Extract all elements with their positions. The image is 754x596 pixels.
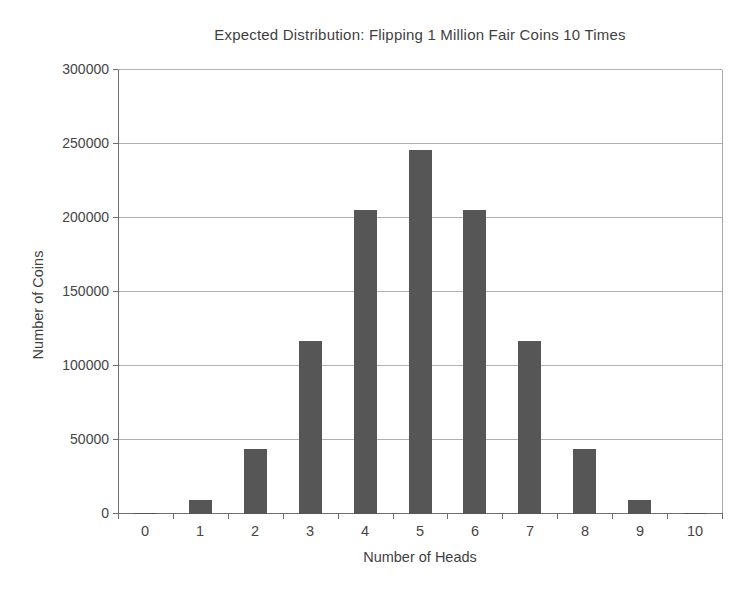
x-tick-mark <box>557 514 558 519</box>
y-axis-title: Number of Coins <box>30 235 50 375</box>
x-tick-mark <box>667 514 668 519</box>
chart-title: Expected Distribution: Flipping 1 Millio… <box>118 26 722 43</box>
x-tick-mark <box>612 514 613 519</box>
x-tick-label: 4 <box>338 523 392 540</box>
y-tick-label: 300000 <box>39 61 109 78</box>
bar-8 <box>573 449 596 514</box>
bar-5 <box>409 150 432 514</box>
bar-0 <box>134 513 157 515</box>
x-tick-label: 1 <box>173 523 227 540</box>
x-tick-label: 9 <box>613 523 667 540</box>
x-tick-label: 0 <box>118 523 172 540</box>
bar-10 <box>683 513 706 515</box>
plot-border-right <box>722 70 723 514</box>
x-tick-label: 8 <box>558 523 612 540</box>
x-tick-mark <box>502 514 503 519</box>
bar-1 <box>189 500 212 514</box>
gridline <box>118 143 722 144</box>
x-tick-mark <box>393 514 394 519</box>
gridline <box>118 69 722 70</box>
bar-9 <box>628 500 651 514</box>
bar-4 <box>354 210 377 514</box>
bar-2 <box>244 449 267 514</box>
y-tick-label: 100000 <box>39 357 109 374</box>
x-tick-label: 5 <box>393 523 447 540</box>
x-tick-mark <box>338 514 339 519</box>
x-tick-mark <box>228 514 229 519</box>
bar-3 <box>299 341 322 514</box>
y-tick-label: 0 <box>39 505 109 522</box>
y-tick-label: 50000 <box>39 431 109 448</box>
y-tick-label: 250000 <box>39 135 109 152</box>
x-tick-mark <box>447 514 448 519</box>
x-tick-mark <box>722 514 723 519</box>
y-tick-label: 150000 <box>39 283 109 300</box>
x-axis-title: Number of Heads <box>118 549 722 565</box>
bar-7 <box>518 341 541 514</box>
y-axis-line <box>118 70 119 515</box>
x-tick-mark <box>173 514 174 519</box>
x-tick-label: 7 <box>503 523 557 540</box>
x-tick-mark <box>118 514 119 519</box>
y-tick-label: 200000 <box>39 209 109 226</box>
bar-6 <box>463 210 486 514</box>
x-tick-label: 3 <box>283 523 337 540</box>
x-tick-mark <box>283 514 284 519</box>
x-tick-label: 10 <box>668 523 722 540</box>
bar-chart: Expected Distribution: Flipping 1 Millio… <box>0 0 754 596</box>
x-tick-label: 6 <box>448 523 502 540</box>
x-tick-label: 2 <box>228 523 282 540</box>
